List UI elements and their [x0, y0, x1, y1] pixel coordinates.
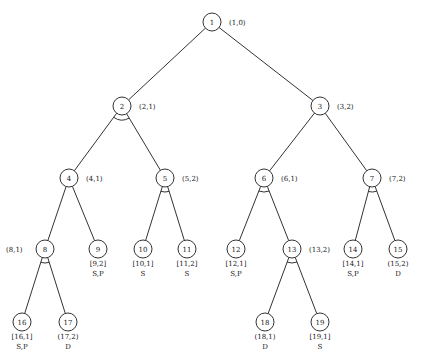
tree-edge: [295, 257, 317, 313]
tree-node-13: 13(13,2): [283, 240, 330, 258]
node-cost-label: (8,1): [6, 246, 23, 254]
node-cost-label: (1,0): [229, 19, 246, 27]
tree-edge: [239, 186, 260, 240]
tree-diagram: 1(1,0)2(2,1)3(3,2)4(4,1)5(5,2)6(6,1)7(7,…: [0, 0, 423, 361]
node-id: 19: [316, 319, 325, 327]
node-cost-label: (5,2): [182, 175, 199, 183]
tree-node-10: 10[10,1]S: [132, 240, 153, 278]
tree-node-3: 3(3,2): [311, 97, 354, 115]
tree-node-16: 16[16,1]S,P: [11, 313, 32, 351]
node-cost-label: (13,2): [309, 246, 330, 254]
tree-edge: [129, 28, 206, 100]
node-status-label: S,P: [347, 270, 359, 278]
tree-edge: [219, 28, 313, 101]
node-id: 14: [349, 246, 358, 254]
nodes-layer: 1(1,0)2(2,1)3(3,2)4(4,1)5(5,2)6(6,1)7(7,…: [6, 13, 409, 351]
node-cost-label: (18,1): [254, 333, 275, 341]
node-cost-label: (7,2): [389, 175, 406, 183]
node-cost-label: [14,1]: [342, 260, 363, 268]
edges-layer: [25, 28, 395, 314]
node-status-label: S: [141, 270, 146, 278]
node-id: 9: [96, 246, 100, 254]
tree-edge: [268, 257, 289, 313]
tree-node-12: 12[12,1]S,P: [225, 240, 246, 278]
node-status-label: D: [262, 343, 268, 351]
node-id: 6: [262, 175, 267, 183]
and-arc: [259, 191, 269, 192]
node-id: 5: [163, 175, 167, 183]
node-id: 16: [18, 319, 27, 327]
node-cost-label: [12,1]: [225, 260, 246, 268]
node-status-label: S,P: [92, 270, 104, 278]
node-id: 4: [67, 175, 72, 183]
node-id: 10: [139, 246, 148, 254]
node-id: 12: [232, 246, 241, 254]
tree-edge: [168, 187, 185, 241]
node-id: 2: [120, 103, 124, 111]
tree-node-19: 19[19,1]S: [309, 313, 330, 351]
tree-edge: [74, 113, 116, 171]
tree-node-6: 6(6,1): [255, 169, 298, 187]
node-status-label: S,P: [16, 343, 28, 351]
node-id: 15: [394, 246, 403, 254]
tree-node-2: 2(2,1): [113, 97, 156, 115]
tree-edge: [355, 187, 369, 241]
and-or-tree: 1(1,0)2(2,1)3(3,2)4(4,1)5(5,2)6(6,1)7(7,…: [0, 0, 423, 361]
node-id: 18: [261, 319, 270, 327]
tree-node-11: 11[11,2]S: [176, 240, 197, 278]
tree-edge: [375, 186, 395, 240]
tree-node-5: 5(5,2): [156, 169, 199, 187]
tree-node-18: 18(18,1)D: [254, 313, 275, 351]
node-id: 3: [318, 103, 322, 111]
node-status-label: D: [395, 270, 401, 278]
node-cost-label: (6,1): [281, 175, 298, 183]
node-cost-label: [10,1]: [132, 260, 153, 268]
and-arc: [161, 191, 169, 192]
node-id: 11: [183, 246, 192, 254]
node-cost-label: [9,2]: [90, 260, 107, 268]
tree-edge: [325, 113, 366, 170]
node-cost-label: [16,1]: [11, 333, 32, 341]
tree-node-8: 8(8,1): [6, 240, 54, 258]
tree-node-7: 7(7,2): [363, 169, 406, 187]
tree-edge: [25, 258, 43, 314]
and-arc: [287, 262, 297, 263]
node-cost-label: (4,1): [86, 175, 103, 183]
node-id: 7: [370, 175, 374, 183]
tree-edge: [72, 186, 94, 240]
tree-node-15: 15(15,2)D: [387, 240, 408, 278]
tree-edge: [48, 187, 66, 241]
node-status-label: D: [65, 343, 71, 351]
tree-node-9: 9[9,2]S,P: [89, 240, 107, 278]
node-status-label: S,P: [230, 270, 242, 278]
node-id: 8: [43, 246, 47, 254]
tree-node-4: 4(4,1): [60, 169, 103, 187]
node-cost-label: [19,1]: [309, 333, 330, 341]
and-arc: [368, 191, 376, 192]
node-id: 1: [210, 19, 214, 27]
tree-node-14: 14[14,1]S,P: [342, 240, 363, 278]
tree-node-1: 1(1,0): [203, 13, 246, 31]
node-cost-label: (3,2): [337, 103, 354, 111]
node-cost-label: [11,2]: [176, 260, 197, 268]
tree-edge: [267, 186, 288, 240]
node-id: 13: [288, 246, 297, 254]
tree-edge: [127, 114, 161, 171]
tree-edge: [48, 258, 66, 314]
node-status-label: S: [185, 270, 190, 278]
tree-edge: [146, 187, 163, 241]
node-id: 17: [64, 319, 73, 327]
and-arc: [114, 117, 129, 120]
tree-node-17: 17(17,2)D: [57, 313, 78, 351]
node-cost-label: (17,2): [57, 333, 78, 341]
node-status-label: S: [318, 343, 323, 351]
node-cost-label: (2,1): [139, 103, 156, 111]
and-arcs-layer: [41, 117, 377, 263]
tree-edge: [270, 113, 315, 171]
node-cost-label: (15,2): [387, 260, 408, 268]
and-arc: [41, 262, 49, 263]
